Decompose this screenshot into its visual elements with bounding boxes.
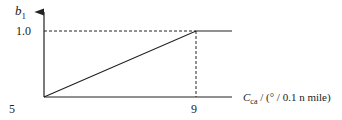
x-tick-9: 9 bbox=[191, 103, 197, 115]
series-line bbox=[44, 31, 232, 97]
chart: b1 1.0 5 9 Cca / (° / 0.1 n mile) bbox=[0, 0, 342, 120]
x-tick-5: 5 bbox=[9, 103, 15, 115]
y-axis-label: b1 bbox=[15, 5, 26, 22]
y-tick-1-0: 1.0 bbox=[16, 25, 31, 37]
x-axis-label: Cca / (° / 0.1 n mile) bbox=[243, 91, 331, 108]
